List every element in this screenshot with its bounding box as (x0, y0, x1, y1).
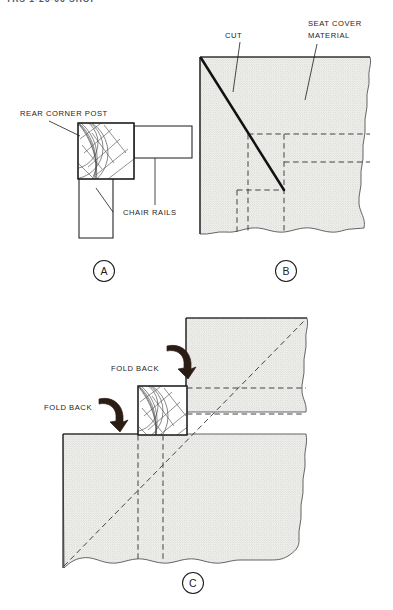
panel-b: CUT SEAT COVER MATERIAL B (200, 19, 371, 282)
label-fold-back-lower: FOLD BACK (44, 403, 92, 412)
panel-b-caption: B (276, 261, 297, 282)
panel-a-horizontal-rail (134, 126, 192, 158)
technical-illustration: REAR CORNER POST CHAIR RAILS A (0, 0, 393, 610)
label-seat-cover-material-line2: MATERIAL (308, 31, 350, 40)
label-fold-back-upper: FOLD BACK (111, 364, 159, 373)
panel-a-caption: A (94, 261, 115, 282)
panel-c: FOLD BACK FOLD BACK C (44, 318, 308, 594)
panel-c-caption: C (183, 573, 204, 594)
diagram-root: TRS 1-26-06 SHOP (0, 0, 393, 610)
panel-a-vertical-rail (79, 178, 113, 238)
label-cut: CUT (225, 31, 242, 40)
label-seat-cover-material-line1: SEAT COVER (308, 19, 362, 28)
panel-b-fabric (200, 57, 371, 234)
panel-a-letter: A (100, 265, 107, 277)
label-chair-rails: CHAIR RAILS (123, 208, 177, 217)
panel-c-fabric-upper (186, 318, 308, 412)
panel-c-fabric-lower (63, 434, 307, 568)
panel-c-letter: C (189, 577, 197, 589)
panel-a-leader-rear-post (49, 121, 80, 136)
label-rear-corner-post: REAR CORNER POST (20, 109, 108, 118)
fold-back-arrow-lower (99, 398, 128, 432)
panel-b-letter: B (282, 265, 289, 277)
panel-a: REAR CORNER POST CHAIR RAILS A (20, 109, 192, 282)
